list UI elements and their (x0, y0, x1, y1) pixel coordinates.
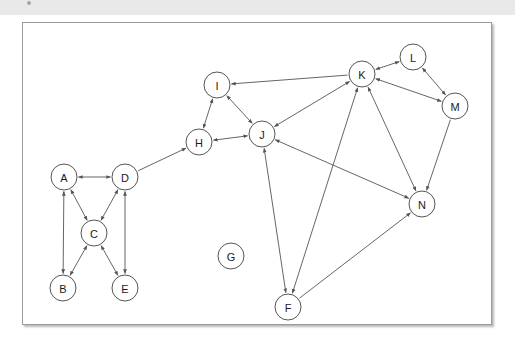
graph-edge-i-j (227, 96, 252, 124)
graph-edge-f-k (292, 88, 357, 293)
node-label-g: G (227, 251, 236, 263)
graph-edge-m-n (427, 120, 451, 191)
graph-edge-f-n (300, 213, 411, 298)
graph-edge-k-i (231, 75, 347, 84)
node-label-f: F (285, 302, 292, 314)
graph-edge-j-f (264, 148, 286, 292)
graph-edge-h-j (213, 136, 247, 140)
node-label-b: B (59, 283, 66, 295)
graph-edge-j-k (274, 81, 349, 126)
graph-node-i: I (204, 72, 230, 98)
graph-node-n: N (409, 191, 435, 217)
node-label-e: E (121, 283, 128, 295)
figure-caption-band (0, 0, 515, 15)
graph-edge-a-b (63, 192, 64, 274)
node-label-m: M (450, 101, 459, 113)
node-label-k: K (358, 69, 366, 81)
graph-node-l: L (400, 44, 426, 70)
graph-edge-h-i (203, 99, 212, 128)
graph-edge-l-m (422, 68, 445, 95)
graph-node-c: C (81, 220, 107, 246)
graph-edge-c-d (101, 190, 118, 221)
graph-edge-k-m (376, 79, 442, 102)
figure-caption-text (22, 0, 492, 9)
directed-graph-canvas: ABCDEFGHIJKLMN (23, 23, 493, 326)
figure-frame: ABCDEFGHIJKLMN (22, 22, 492, 325)
graph-edge-d-h (138, 148, 186, 171)
graph-edge-k-l (376, 62, 399, 70)
node-label-d: D (121, 172, 129, 184)
graph-node-e: E (112, 275, 138, 301)
node-label-l: L (410, 52, 416, 64)
graph-node-d: D (112, 164, 138, 190)
node-label-i: I (215, 80, 218, 92)
graph-node-j: J (249, 121, 275, 147)
node-label-c: C (90, 228, 98, 240)
graph-node-m: M (442, 93, 468, 119)
graph-edge-c-b (70, 246, 87, 276)
graph-node-k: K (349, 61, 375, 87)
node-label-a: A (60, 172, 68, 184)
caption-figure-gap (0, 15, 515, 22)
graph-edge-j-n (275, 140, 408, 198)
graph-edge-k-n (368, 87, 416, 191)
node-label-n: N (418, 199, 426, 211)
node-label-h: H (195, 137, 203, 149)
node-label-j: J (259, 129, 265, 141)
graph-node-a: A (51, 164, 77, 190)
graph-node-f: F (275, 294, 301, 320)
graph-edge-a-c (71, 190, 87, 220)
graph-edge-c-e (101, 246, 118, 276)
graph-node-g: G (218, 243, 244, 269)
graph-node-b: B (50, 275, 76, 301)
graph-node-layer: ABCDEFGHIJKLMN (50, 44, 468, 320)
graph-node-h: H (186, 129, 212, 155)
